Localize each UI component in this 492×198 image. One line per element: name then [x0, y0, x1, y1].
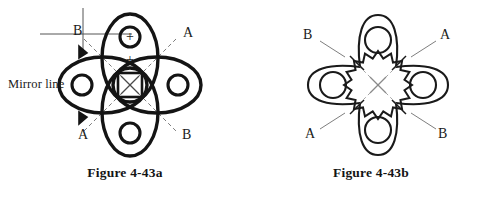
petal-south-circle	[120, 123, 140, 143]
leader-b-top-left	[320, 41, 345, 57]
center-x-mark	[370, 77, 386, 93]
figure-4-43b-artwork	[250, 0, 492, 165]
figure-board: Mirror line B A A B + + Figure 4-43a	[0, 0, 492, 198]
lobe-south-circle	[365, 117, 391, 143]
figure-4-43a-panel: Mirror line B A A B + + Figure 4-43a	[0, 0, 250, 198]
mirror-line-label: Mirror line	[8, 78, 64, 91]
lobe-north-circle	[365, 27, 391, 53]
petal-west-circle	[72, 75, 92, 95]
label-b-top-left: B	[303, 28, 312, 42]
leader-a-top-right	[411, 41, 436, 57]
label-a-top-right: A	[440, 28, 450, 42]
label-a-bottom-left: A	[305, 127, 315, 141]
label-a-top-right: A	[183, 26, 193, 40]
center-x-strokes	[121, 76, 139, 94]
plus-in-top-circle: +	[126, 30, 134, 44]
figure-4-43b-caption: Figure 4-43b	[250, 165, 492, 181]
leader-b-bottom-right	[411, 113, 436, 129]
figure-4-43a-caption: Figure 4-43a	[0, 165, 250, 181]
label-b-bottom-right: B	[182, 128, 191, 142]
figure-4-43b-panel: B A A B Figure 4-43b	[250, 0, 492, 198]
label-a-bottom-left: A	[78, 128, 88, 142]
leader-a-bottom-left	[320, 113, 345, 129]
center-motif	[118, 73, 142, 97]
label-b-bottom-right: B	[438, 127, 447, 141]
mirror-tick-lower	[79, 112, 87, 124]
petal-east-circle	[168, 75, 188, 95]
plus-below-top-circle: +	[126, 53, 134, 67]
mirror-line	[40, 8, 132, 52]
label-b-top-left: B	[73, 24, 82, 38]
